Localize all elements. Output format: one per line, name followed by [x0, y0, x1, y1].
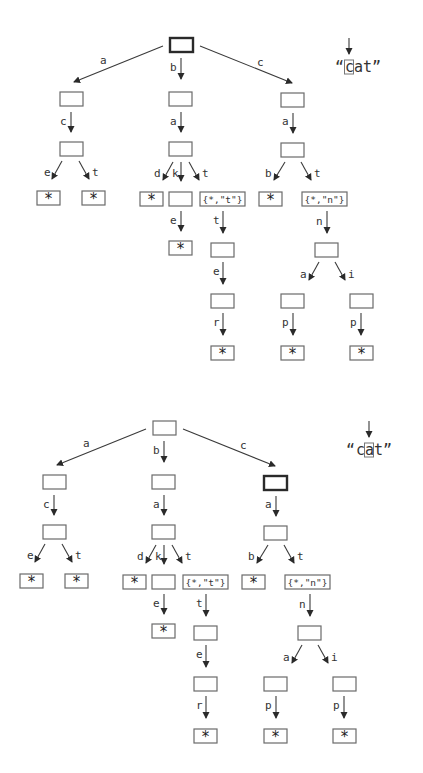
- trie-edge: r: [196, 696, 206, 718]
- node-box: [60, 142, 83, 156]
- trie-edge: e: [44, 161, 62, 179]
- edge-label: p: [282, 316, 289, 329]
- trie-node-catnip: *: [350, 345, 373, 363]
- edge-label: d: [137, 550, 144, 563]
- trie-node-bak: [169, 192, 192, 206]
- trie-edge: c: [60, 112, 71, 132]
- trie-node-cab: *: [259, 191, 282, 209]
- trie-node-ac: [60, 142, 83, 156]
- word-char: c: [356, 441, 365, 459]
- trie-edge: t: [284, 545, 304, 563]
- trie-node-bat: {*,"t"}: [183, 575, 228, 589]
- node-box: [194, 626, 217, 640]
- arrow-icon: [292, 645, 302, 663]
- trie-edge: p: [265, 696, 276, 718]
- edge-label: d: [154, 167, 161, 180]
- edge-label: p: [333, 699, 340, 712]
- trie-node-b: [152, 475, 175, 489]
- trie-node-bake: *: [152, 623, 175, 641]
- edge-label: b: [265, 167, 272, 180]
- trie-node-catni: [350, 294, 373, 308]
- trie-edge: c: [183, 429, 275, 466]
- edge-label: e: [170, 214, 177, 227]
- trie-edge: b: [265, 162, 285, 180]
- arrow-icon: [301, 162, 311, 180]
- trie-edge: p: [350, 313, 361, 335]
- arrow-icon: [62, 544, 72, 562]
- node-box: [264, 677, 287, 691]
- trie-node-c: [281, 93, 304, 107]
- end-of-word-marker: *: [267, 191, 275, 209]
- trie-node-batter: *: [194, 728, 217, 746]
- edge-label: k: [155, 550, 162, 563]
- trie-edge: k: [155, 545, 164, 564]
- edge-label: t: [314, 167, 321, 180]
- word-char: t: [374, 441, 383, 459]
- trie-node-cat: {*,"n"}: [285, 575, 330, 589]
- edge-label: r: [213, 316, 220, 329]
- arrow-icon: [335, 262, 345, 280]
- arrow-icon: [309, 262, 319, 280]
- end-of-word-marker: *: [131, 574, 139, 592]
- trie-node-root: [153, 421, 176, 435]
- node-value: {*,"t"}: [185, 577, 225, 588]
- trie-edge: t: [301, 162, 321, 180]
- edge-label: e: [153, 597, 160, 610]
- trie-node-act: *: [65, 573, 88, 591]
- open-quote: “: [335, 58, 344, 76]
- edge-label: b: [153, 444, 160, 457]
- edge-label: a: [83, 437, 90, 450]
- edge-label: r: [196, 699, 203, 712]
- trie-step-1: abccaaetdktbtetneairpp***{*,"t"}*{*,"n"}…: [37, 38, 381, 363]
- trie-node-catna: [281, 294, 304, 308]
- arrow-icon: [189, 162, 199, 180]
- trie-node-ace: *: [20, 573, 43, 591]
- edge-label: t: [185, 550, 192, 563]
- node-box: [211, 294, 234, 308]
- close-quote: ”: [372, 58, 381, 76]
- arrow-icon: [74, 46, 163, 82]
- edge-label: a: [282, 115, 289, 128]
- edge-label: c: [60, 115, 67, 128]
- node-box: [153, 421, 176, 435]
- arrow-icon: [274, 162, 285, 180]
- trie-edge: e: [27, 544, 45, 562]
- trie-edge: a: [74, 46, 163, 82]
- search-word-pointer: “cat”: [335, 38, 381, 76]
- edge-label: a: [170, 115, 177, 128]
- edge-label: t: [75, 549, 82, 562]
- arrow-icon: [257, 545, 268, 563]
- node-box: [315, 243, 338, 257]
- edge-label: a: [153, 498, 160, 511]
- edge-label: e: [196, 648, 203, 661]
- word-char: a: [365, 441, 374, 459]
- end-of-word-marker: *: [272, 728, 280, 746]
- trie-node-catnap: *: [281, 345, 304, 363]
- trie-edge: a: [282, 113, 293, 133]
- trie-node-catna: [264, 677, 287, 691]
- trie-node-bake: *: [169, 240, 192, 258]
- trie-node-bat: {*,"t"}: [200, 192, 245, 206]
- trie-edge: b: [170, 58, 181, 79]
- trie-node-bad: *: [140, 191, 163, 209]
- edge-label: a: [300, 268, 307, 281]
- edge-label: e: [213, 265, 220, 278]
- edge-label: a: [100, 54, 107, 67]
- node-box: [281, 294, 304, 308]
- node-value: {*,"n"}: [304, 194, 344, 205]
- trie-edge: a: [153, 495, 164, 515]
- node-box: [169, 192, 192, 206]
- node-value: {*,"n"}: [287, 577, 327, 588]
- trie-edge: p: [282, 313, 293, 335]
- word-char: t: [363, 58, 372, 76]
- trie-node-ca: [281, 143, 304, 157]
- arrow-icon: [183, 429, 275, 466]
- trie-node-batt: [211, 243, 234, 257]
- trie-node-ca: [264, 526, 287, 540]
- word-char: c: [345, 58, 354, 76]
- edge-label: c: [43, 498, 50, 511]
- edge-label: k: [172, 167, 179, 180]
- trie-node-ba: [152, 525, 175, 539]
- edge-label: a: [265, 498, 272, 511]
- trie-node-batt: [194, 626, 217, 640]
